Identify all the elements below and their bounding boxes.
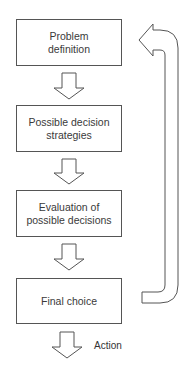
step-final-choice: Final choice (16, 278, 122, 324)
step-label: Evaluation of (26, 201, 111, 214)
step-label: strategies (28, 129, 109, 142)
down-arrow-icon (54, 73, 84, 99)
step-possible-decision-strategies: Possible decision strategies (16, 105, 122, 152)
step-label: Final choice (41, 295, 97, 308)
down-arrow-icon (54, 159, 84, 184)
feedback-loop-arrow-icon (139, 24, 178, 303)
action-arrow-icon (52, 332, 82, 358)
down-arrow-icon (54, 244, 84, 270)
step-label: Possible decision (28, 116, 109, 129)
step-label: possible decisions (26, 214, 111, 227)
step-label: definition (48, 43, 90, 56)
step-evaluation-of-possible-decisions: Evaluation of possible decisions (16, 190, 122, 237)
step-label: Problem (48, 30, 90, 43)
action-label: Action (94, 340, 122, 351)
step-problem-definition: Problem definition (16, 19, 122, 66)
